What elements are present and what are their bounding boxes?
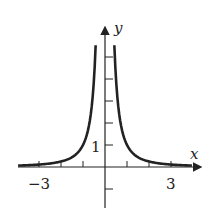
- curve-right-branch: [114, 45, 192, 165]
- y-axis-label: y: [113, 19, 123, 37]
- x-tick-label-3: 3: [166, 175, 176, 193]
- graph: y x −3 3 1: [0, 0, 204, 209]
- y-tick-label-1: 1: [91, 138, 101, 156]
- curve-left-branch: [18, 45, 96, 165]
- x-axis-label: x: [190, 145, 199, 163]
- x-tick-label-neg3: −3: [28, 175, 50, 193]
